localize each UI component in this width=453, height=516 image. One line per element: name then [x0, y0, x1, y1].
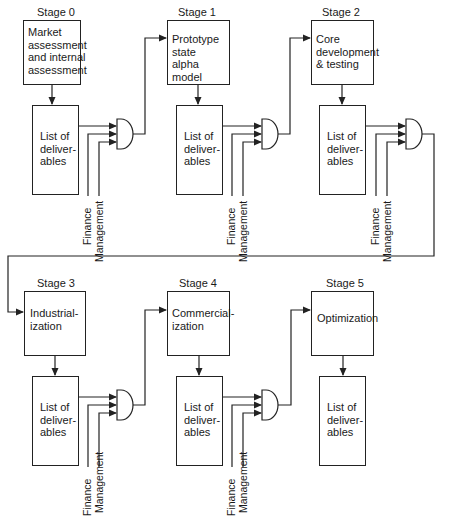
- stage-3-finance-label: Finance: [82, 479, 93, 516]
- stage-5-label: Stage 5: [326, 277, 364, 289]
- stage-4-label: Stage 4: [179, 277, 217, 289]
- stage-1-finance-label: Finance: [226, 208, 237, 245]
- stage-4-task-text: Commercial- ization: [172, 307, 234, 332]
- stage-1-management-label: Management: [238, 201, 249, 262]
- stage-5-deliverables-box: List of deliver- ables: [319, 376, 366, 466]
- stage-0-deliverables-box: List of deliver- ables: [32, 105, 79, 195]
- stage-4-deliverables-text: List of deliver- ables: [184, 401, 220, 439]
- stage-1-label: Stage 1: [178, 6, 216, 18]
- stage-1-deliverables-box: List of deliver- ables: [176, 105, 223, 195]
- stage-2-task-box: Core development & testing: [311, 20, 374, 85]
- stage-3-deliverables-box: List of deliver- ables: [32, 376, 79, 466]
- stage-2-finance-label: Finance: [370, 208, 381, 245]
- stage-5-deliverables-text: List of deliver- ables: [327, 401, 363, 439]
- stage-3-deliverables-text: List of deliver- ables: [40, 401, 76, 439]
- stage-3-management-label: Management: [94, 452, 105, 513]
- stage-3-label: Stage 3: [37, 277, 75, 289]
- stage-0-deliverables-text: List of deliver- ables: [40, 130, 76, 168]
- stage-2-deliverables-box: List of deliver- ables: [319, 105, 366, 195]
- stage-5-task-text: Optimization: [317, 312, 378, 325]
- stage-1-deliverables-text: List of deliver- ables: [184, 130, 220, 168]
- stage-0-management-label: Management: [94, 201, 105, 262]
- stage-2-task-text: Core development & testing: [316, 33, 379, 71]
- stage-1-task-box: Prototype state alpha model: [167, 20, 230, 85]
- stage-2-management-label: Management: [382, 201, 393, 262]
- stage-4-management-label: Management: [238, 452, 249, 513]
- stage-2-label: Stage 2: [322, 6, 360, 18]
- stage-4-deliverables-box: List of deliver- ables: [176, 376, 223, 466]
- stage-3-task-box: Industrial- ization: [24, 291, 86, 356]
- stage-2-deliverables-text: List of deliver- ables: [327, 130, 363, 168]
- stage-1-task-text: Prototype state alpha model: [172, 33, 229, 83]
- stage-0-task-text: Market assessment and internal assessmen…: [28, 26, 87, 76]
- stage-3-task-text: Industrial- ization: [30, 307, 78, 332]
- stage-0-label: Stage 0: [37, 6, 75, 18]
- stage-4-task-box: Commercial- ization: [167, 291, 230, 356]
- stage-0-task-box: Market assessment and internal assessmen…: [23, 20, 81, 85]
- stage-4-finance-label: Finance: [226, 479, 237, 516]
- stage-5-task-box: Optimization: [311, 291, 374, 356]
- stage-0-finance-label: Finance: [82, 208, 93, 245]
